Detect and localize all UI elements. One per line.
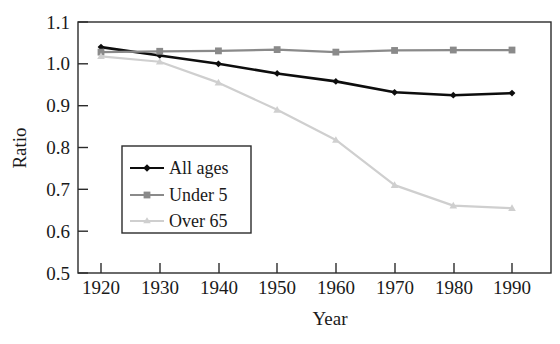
y-tick-label-6: 1.1 xyxy=(46,12,70,33)
x-tick-label-1: 1930 xyxy=(141,277,179,298)
x-tick-label-7: 1990 xyxy=(493,277,531,298)
x-tick-label-4: 1960 xyxy=(317,277,355,298)
y-tick-label-0: 0.5 xyxy=(46,263,70,284)
y-tick-label-4: 0.9 xyxy=(46,95,70,116)
x-tick-label-5: 1970 xyxy=(376,277,414,298)
y-axis-title: Ratio xyxy=(9,127,30,168)
y-tick-label-5: 1.0 xyxy=(46,53,70,74)
legend: All ages Under 5 Over 65 xyxy=(122,146,251,233)
x-tick-label-6: 1980 xyxy=(435,277,473,298)
ratio-by-year-line-chart: 0.5 0.6 0.7 0.8 0.9 1.0 1.1 1920 1930 19… xyxy=(0,0,560,344)
x-tick-label-3: 1950 xyxy=(258,277,296,298)
legend-label-over-65: Over 65 xyxy=(169,211,227,231)
y-tick-label-1: 0.6 xyxy=(46,221,70,242)
legend-label-under-5: Under 5 xyxy=(169,185,227,205)
y-tick-label-2: 0.7 xyxy=(46,179,70,200)
x-axis-title: Year xyxy=(312,308,348,329)
legend-label-all-ages: All ages xyxy=(169,158,228,178)
chart-page: 0.5 0.6 0.7 0.8 0.9 1.0 1.1 1920 1930 19… xyxy=(0,0,560,344)
x-tick-label-0: 1920 xyxy=(82,277,120,298)
y-tick-label-3: 0.8 xyxy=(46,137,70,158)
x-tick-label-2: 1940 xyxy=(200,277,238,298)
legend-marker-under-5 xyxy=(144,192,151,199)
